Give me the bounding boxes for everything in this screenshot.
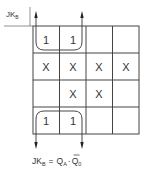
karnaugh-map-diagram: JKB 1 1 X X X X X X 1 1 JKB=QA·Q0 (0, 0, 147, 175)
arrow-down-icon (80, 142, 83, 149)
cell-r0-c0: 1 (43, 34, 49, 46)
cell-r3-c1: 1 (70, 115, 76, 127)
cell-r0-c1: 1 (70, 34, 76, 46)
simplified-equation: JKB=QA·Q0 (32, 156, 81, 167)
cell-r2-c2: X (95, 88, 103, 100)
cell-r3-c0: 1 (43, 115, 49, 127)
arrow-up-icon (34, 11, 37, 18)
arrow-up-icon (80, 11, 83, 18)
cell-r1-c3: X (122, 61, 130, 73)
arrow-down-icon (34, 142, 37, 149)
corner-label: JKB (6, 10, 19, 20)
cell-r1-c1: X (69, 61, 77, 73)
cell-r2-c1: X (69, 88, 77, 100)
cell-r1-c0: X (42, 61, 50, 73)
cell-r1-c2: X (95, 61, 103, 73)
